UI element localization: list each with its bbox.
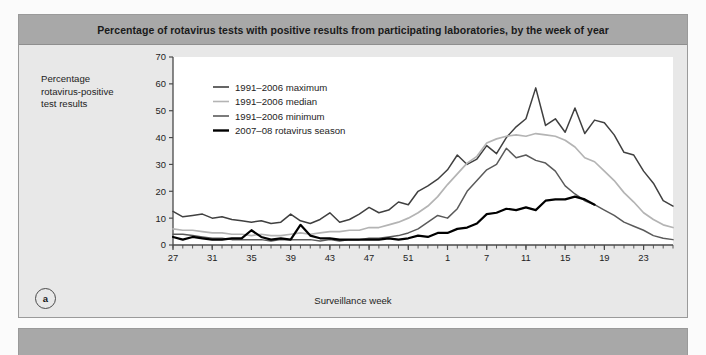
x-tick-label: 19 [599,252,609,263]
y-tick-label: 70 [156,51,166,62]
x-tick-label: 51 [403,252,413,263]
legend-label: 1991–2006 median [235,96,317,107]
y-tick-label: 20 [156,186,166,197]
x-tick-label: 39 [285,252,295,263]
x-tick-label: 31 [207,252,217,263]
legend-label: 2007–08 rotavirus season [235,125,345,136]
y-axis-title-line-1: Percentage [41,73,137,86]
x-tick-label: 27 [168,252,178,263]
x-tick-label: 7 [484,252,489,263]
chart-plot-area: 0102030405060702731353943475117111519231… [135,45,681,295]
x-tick-label: 1 [445,252,450,263]
x-tick-label: 11 [521,252,531,263]
x-tick-label: 35 [246,252,256,263]
x-tick-label: 15 [560,252,570,263]
y-tick-label: 50 [156,105,166,116]
x-tick-label: 23 [638,252,648,263]
y-tick-label: 40 [156,132,166,143]
y-tick-label: 0 [161,239,166,250]
y-axis-title-line-3: test results [41,98,137,111]
panel-a-title: Percentage of rotavirus tests with posit… [97,24,609,36]
x-tick-label: 43 [325,252,335,263]
legend-label: 1991–2006 maximum [235,82,327,93]
y-tick-label: 30 [156,159,166,170]
y-tick-label: 10 [156,213,166,224]
panel-a-title-bar: Percentage of rotavirus tests with posit… [19,15,687,45]
legend-label: 1991–2006 minimum [235,111,325,122]
panel-a-body: Percentage rotavirus-positive test resul… [19,45,687,317]
panel-a-letter-badge: a [35,288,56,309]
x-tick-label: 47 [364,252,374,263]
panel-b-partial [18,328,688,355]
panel-a: Percentage of rotavirus tests with posit… [18,14,688,318]
figure-root: Percentage of rotavirus tests with posit… [0,0,706,355]
x-axis-title: Surveillance week [19,295,687,306]
rotavirus-line-chart: 0102030405060702731353943475117111519231… [135,45,681,295]
y-axis-title-line-2: rotavirus-positive [41,86,137,99]
y-axis-title: Percentage rotavirus-positive test resul… [41,73,137,111]
y-tick-label: 60 [156,78,166,89]
